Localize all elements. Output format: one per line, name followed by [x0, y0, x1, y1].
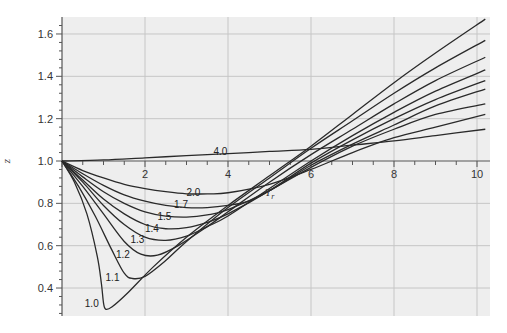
curve-label: 2.0: [187, 187, 201, 198]
curve-label: 1.2: [116, 249, 130, 260]
plot-background: [62, 17, 490, 316]
x-tick-label: 8: [391, 168, 397, 180]
y-tick-label: 1.0: [38, 155, 53, 167]
curve-label: 1.0: [85, 298, 99, 309]
curve-label: 1.1: [106, 272, 120, 283]
curve-label: 1.4: [145, 223, 159, 234]
y-tick-label: 1.6: [38, 28, 53, 40]
y-axis: 0.40.60.81.01.21.41.6: [38, 17, 62, 316]
y-tick-label: 1.2: [38, 113, 53, 125]
curve-label: 4.0: [213, 146, 227, 157]
y-tick-label: 0.4: [38, 282, 53, 294]
x-tick-label: 4: [225, 168, 231, 180]
y-tick-label: 1.4: [38, 70, 53, 82]
y-tick-label: 0.8: [38, 197, 53, 209]
x-tick-label: 10: [471, 168, 483, 180]
y-tick-label: 0.6: [38, 240, 53, 252]
compressibility-chart: 0.40.60.81.01.21.41.6 246810 1.01.11.21.…: [0, 0, 507, 333]
x-tick-label: 2: [142, 168, 148, 180]
y-axis-title: z: [0, 158, 12, 164]
curve-label: 1.3: [130, 234, 144, 245]
curve-label: 1.7: [174, 199, 188, 210]
curve-label: 1.5: [157, 211, 171, 222]
